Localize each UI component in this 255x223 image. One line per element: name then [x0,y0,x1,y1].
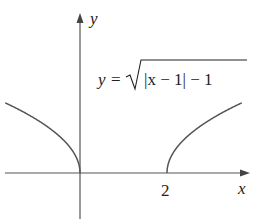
x-axis-arrow-icon [240,170,250,177]
formula-radicand: |x − 1| − 1 [144,70,212,89]
graph: y x 2 y = |x − 1| − 1 [0,0,255,223]
x-tick-2: 2 [161,181,170,200]
formula-equals: = [111,70,121,89]
x-axis-label: x [237,179,246,198]
formula-label: y = |x − 1| − 1 [96,60,247,89]
curve-left-branch [5,103,80,173]
curve-right-branch [167,103,242,173]
y-axis-label: y [88,9,98,28]
formula-lhs: y [96,70,106,89]
y-axis-arrow-icon [77,13,84,23]
